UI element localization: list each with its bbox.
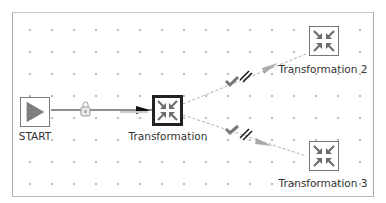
node-transformation-3[interactable]: [309, 141, 339, 171]
hop-start-to-transformation[interactable]: [51, 102, 152, 116]
collapse-arrows-icon: [310, 27, 338, 55]
hop-transformation-to-transformation2[interactable]: [183, 54, 306, 104]
node-transformation[interactable]: [152, 95, 183, 126]
node-start[interactable]: [20, 97, 50, 127]
collapse-arrows-icon: [155, 98, 180, 123]
lock-icon: [81, 102, 90, 116]
node-label-transformation: Transformation: [129, 130, 208, 142]
node-label-start: START: [19, 130, 51, 142]
node-transformation-2[interactable]: [309, 26, 339, 56]
play-icon: [21, 98, 49, 126]
check-parallel-icon: [226, 126, 252, 140]
node-label-transformation-3: Transformation 3: [279, 177, 368, 189]
node-label-transformation-2: Transformation 2: [279, 63, 368, 75]
collapse-arrows-icon: [310, 142, 338, 170]
